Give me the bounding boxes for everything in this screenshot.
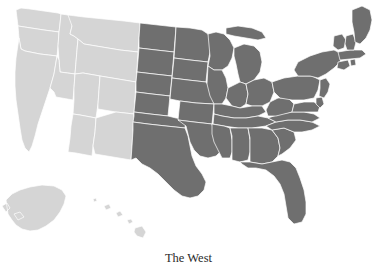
state-alabama[interactable] [230,128,250,162]
state-wisconsin[interactable] [208,32,234,70]
state-florida[interactable] [240,160,306,224]
state-north-dakota[interactable] [139,23,176,52]
state-new-mexico[interactable] [93,112,134,160]
state-rhode-island[interactable] [350,59,356,66]
state-indiana[interactable] [226,82,248,108]
figure-container: The West [0,0,377,263]
state-utah[interactable] [73,73,100,118]
state-vermont[interactable] [333,34,346,50]
state-massachusetts[interactable] [338,50,366,60]
state-connecticut[interactable] [337,60,350,70]
usa-choropleth-map [0,0,377,263]
figure-caption: The West [0,251,377,263]
state-south-dakota[interactable] [137,48,174,76]
region-other-group [131,6,372,224]
state-new-york[interactable] [294,50,342,78]
state-new-jersey[interactable] [319,78,330,98]
state-minnesota[interactable] [174,27,212,62]
state-pennsylvania[interactable] [272,76,320,100]
state-california[interactable] [15,38,57,152]
state-arizona[interactable] [68,114,96,156]
state-maine[interactable] [352,6,372,44]
state-alaska[interactable] [2,185,66,231]
region-west-group [2,8,146,238]
state-colorado[interactable] [98,76,136,114]
state-hawaii[interactable] [93,198,146,238]
